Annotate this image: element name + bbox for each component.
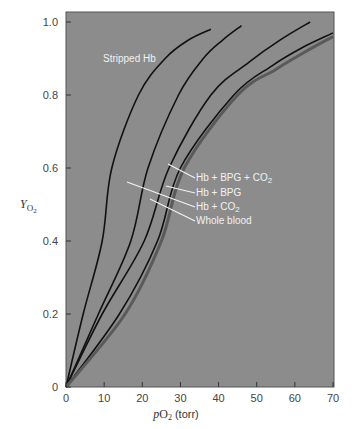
- x-tick-label: 40: [212, 392, 224, 404]
- x-tick-label: 30: [174, 392, 186, 404]
- x-tick-label: 0: [63, 392, 69, 404]
- y-tick-label: 0.4: [43, 235, 58, 247]
- label-stripped-hb: Stripped Hb: [103, 53, 156, 64]
- y-tick-label: 1.0: [43, 16, 58, 28]
- x-tick-label: 20: [136, 392, 148, 404]
- y-tick-label: 0.6: [43, 162, 58, 174]
- y-tick-label: 0: [52, 381, 58, 393]
- x-axis-title: pO2 (torr): [152, 407, 199, 422]
- x-tick-label: 70: [327, 392, 339, 404]
- label-hb-bpg: Hb + BPG: [196, 187, 242, 198]
- x-tick-label: 60: [289, 392, 301, 404]
- y-axis-title: YO2: [20, 197, 37, 215]
- y-tick-label: 0.8: [43, 89, 58, 101]
- x-tick-label: 10: [98, 392, 110, 404]
- x-tick-label: 50: [251, 392, 263, 404]
- y-tick-label: 0.2: [43, 308, 58, 320]
- label-whole-blood: Whole blood: [196, 215, 252, 226]
- oxygen-saturation-chart: 00.20.40.60.81.0 010203040506070 Strippe…: [0, 0, 352, 429]
